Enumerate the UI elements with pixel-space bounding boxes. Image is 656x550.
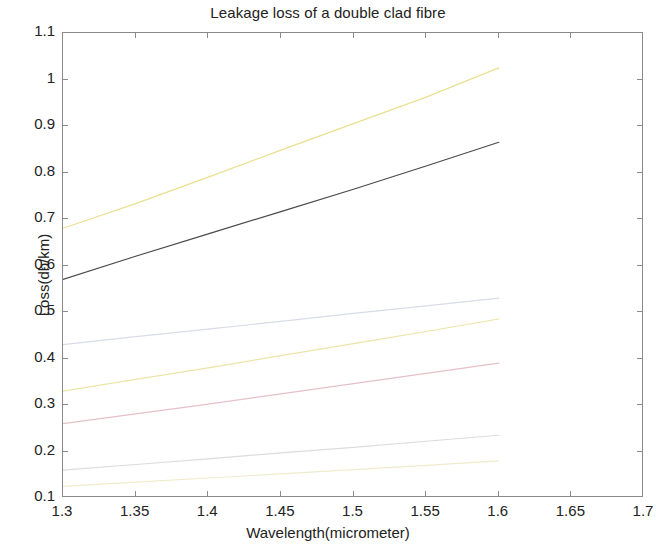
x-tick-mark bbox=[570, 491, 571, 497]
y-tick-mark bbox=[637, 32, 643, 33]
y-tick-mark bbox=[62, 358, 68, 359]
x-tick-label: 1.3 bbox=[52, 502, 73, 519]
x-tick-mark bbox=[425, 491, 426, 497]
y-tick-mark bbox=[637, 311, 643, 312]
y-tick-mark bbox=[62, 125, 68, 126]
series-line-1 bbox=[63, 68, 499, 228]
x-tick-mark bbox=[353, 491, 354, 497]
y-tick-label: 0.3 bbox=[34, 394, 55, 411]
series-line-4 bbox=[63, 319, 499, 391]
y-tick-label: 0.4 bbox=[34, 348, 55, 365]
series-line-2 bbox=[63, 142, 499, 279]
y-tick-mark bbox=[62, 218, 68, 219]
y-tick-mark bbox=[62, 172, 68, 173]
y-tick-mark bbox=[637, 451, 643, 452]
x-tick-label: 1.55 bbox=[411, 502, 440, 519]
x-tick-label: 1.6 bbox=[487, 502, 508, 519]
y-tick-mark bbox=[62, 404, 68, 405]
chart-title: Leakage loss of a double clad fibre bbox=[0, 4, 656, 21]
y-tick-mark bbox=[637, 79, 643, 80]
y-tick-label: 1.1 bbox=[34, 22, 55, 39]
x-tick-mark bbox=[135, 491, 136, 497]
series-line-3 bbox=[63, 298, 499, 345]
x-tick-mark bbox=[498, 32, 499, 38]
x-tick-mark bbox=[207, 491, 208, 497]
x-tick-mark bbox=[498, 491, 499, 497]
y-tick-label: 0.7 bbox=[34, 208, 55, 225]
series-line-5 bbox=[63, 363, 499, 423]
y-tick-label: 0.6 bbox=[34, 255, 55, 272]
x-tick-mark bbox=[570, 32, 571, 38]
y-tick-mark bbox=[637, 218, 643, 219]
x-tick-label: 1.4 bbox=[197, 502, 218, 519]
y-tick-mark bbox=[637, 404, 643, 405]
y-tick-label: 0.2 bbox=[34, 441, 55, 458]
y-tick-mark bbox=[637, 125, 643, 126]
x-tick-mark bbox=[280, 491, 281, 497]
y-tick-label: 0.8 bbox=[34, 162, 55, 179]
y-tick-mark bbox=[62, 451, 68, 452]
x-tick-mark bbox=[425, 32, 426, 38]
x-tick-label: 1.45 bbox=[265, 502, 294, 519]
series-group bbox=[63, 68, 499, 487]
y-tick-mark bbox=[637, 358, 643, 359]
y-tick-mark bbox=[62, 265, 68, 266]
y-tick-mark bbox=[62, 32, 68, 33]
y-tick-mark bbox=[637, 265, 643, 266]
y-tick-mark bbox=[637, 172, 643, 173]
x-axis-title: Wavelength(micrometer) bbox=[0, 524, 656, 541]
plot-area bbox=[62, 32, 643, 497]
x-tick-mark bbox=[135, 32, 136, 38]
x-tick-label: 1.65 bbox=[556, 502, 585, 519]
figure-canvas: Leakage loss of a double clad fibre Loss… bbox=[0, 0, 656, 550]
y-tick-label: 0.5 bbox=[34, 301, 55, 318]
x-tick-mark bbox=[280, 32, 281, 38]
y-tick-label: 1 bbox=[47, 69, 55, 86]
x-tick-mark bbox=[353, 32, 354, 38]
y-tick-label: 0.9 bbox=[34, 115, 55, 132]
x-tick-mark bbox=[207, 32, 208, 38]
y-tick-mark bbox=[62, 79, 68, 80]
y-tick-mark bbox=[62, 311, 68, 312]
series-lines-svg bbox=[63, 33, 644, 498]
x-tick-label: 1.7 bbox=[633, 502, 654, 519]
x-tick-label: 1.5 bbox=[342, 502, 363, 519]
x-tick-label: 1.35 bbox=[120, 502, 149, 519]
